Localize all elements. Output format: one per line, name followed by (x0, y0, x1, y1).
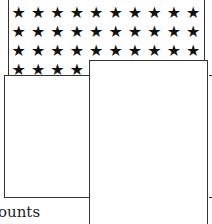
star-icon: ★ (106, 43, 125, 59)
star-row-1: ★ ★ ★ ★ ★ ★ ★ ★ ★ ★ (9, 5, 203, 21)
star-icon: ★ (87, 43, 106, 59)
star-icon: ★ (67, 5, 86, 21)
star-icon: ★ (125, 43, 144, 59)
star-icon: ★ (9, 24, 28, 40)
star-icon: ★ (125, 24, 144, 40)
background-card-edge (209, 75, 212, 198)
star-icon: ★ (184, 43, 203, 59)
star-icon: ★ (48, 24, 67, 40)
star-row-2: ★ ★ ★ ★ ★ ★ ★ ★ ★ ★ (9, 24, 203, 40)
star-icon: ★ (87, 5, 106, 21)
star-icon: ★ (9, 43, 28, 59)
star-icon: ★ (145, 24, 164, 40)
star-icon: ★ (125, 5, 144, 21)
star-row-3: ★ ★ ★ ★ ★ ★ ★ ★ ★ ★ (9, 43, 203, 59)
star-icon: ★ (106, 5, 125, 21)
star-icon: ★ (106, 24, 125, 40)
left-card (4, 75, 91, 198)
star-icon: ★ (48, 5, 67, 21)
star-icon: ★ (28, 5, 47, 21)
star-icon: ★ (67, 43, 86, 59)
star-icon: ★ (184, 5, 203, 21)
star-icon: ★ (164, 43, 183, 59)
star-icon: ★ (184, 24, 203, 40)
caption-text: ounts (0, 203, 40, 221)
star-icon: ★ (145, 43, 164, 59)
star-icon: ★ (164, 24, 183, 40)
star-icon: ★ (145, 5, 164, 21)
right-card (89, 60, 208, 224)
star-icon: ★ (9, 5, 28, 21)
star-icon: ★ (28, 43, 47, 59)
star-icon: ★ (87, 24, 106, 40)
star-icon: ★ (48, 43, 67, 59)
star-icon: ★ (164, 5, 183, 21)
star-icon: ★ (28, 24, 47, 40)
star-icon: ★ (67, 24, 86, 40)
